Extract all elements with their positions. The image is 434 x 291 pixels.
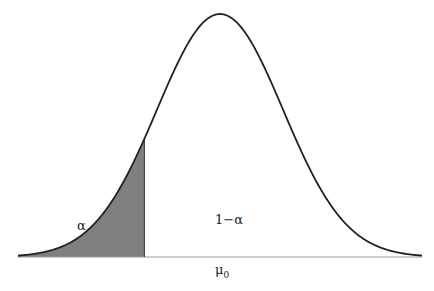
alpha-shaded-region [18,139,144,257]
normal-curve-plot [0,0,434,291]
one-minus-alpha-label: 1−α [215,212,243,227]
mu-zero-label: μ0 [215,262,229,280]
mu-subscript: 0 [223,270,229,280]
alpha-label: α [77,218,86,233]
